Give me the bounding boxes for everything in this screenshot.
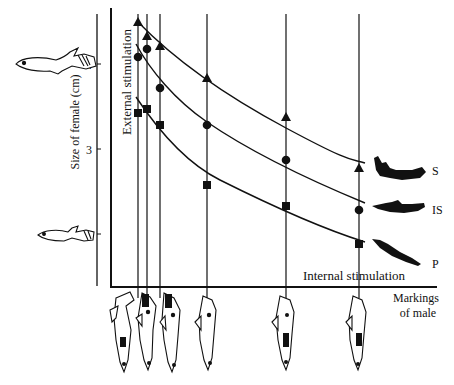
curve-p: [136, 97, 365, 242]
male-fish-5-icon: [272, 296, 294, 370]
legend-label-is: IS: [432, 203, 443, 217]
internal-stimulation-label: Internal stimulation: [303, 268, 406, 283]
external-stimulation-label: External stimulation: [119, 29, 134, 135]
chart: 4 3 2 Size of female (cm) External stimu…: [0, 0, 454, 385]
large-female-fish-icon: [16, 48, 96, 74]
legend-label-s: S: [432, 164, 439, 178]
legend-label-p: P: [432, 257, 439, 271]
markings-label-line1: Markings: [393, 291, 439, 305]
series-p-markers: [134, 105, 363, 248]
tick-label-3: 3: [86, 143, 92, 157]
male-fish-4-icon: [195, 296, 216, 370]
male-fish-3-icon: [160, 293, 180, 372]
male-vertical-lines: [138, 14, 359, 298]
fish-posture-s-icon: [374, 156, 426, 180]
series-s-markers: [133, 17, 364, 172]
markings-label-line2: of male: [400, 306, 436, 320]
male-fish-icons: [110, 292, 366, 372]
male-fish-6-icon: [346, 296, 366, 370]
male-fish-2-icon: [136, 293, 156, 370]
series-is-markers: [134, 45, 364, 215]
fish-posture-p-icon: [372, 239, 421, 266]
fish-posture-is-icon: [372, 200, 425, 213]
y-axis-label: Size of female (cm): [68, 75, 82, 170]
male-fish-1-icon: [110, 292, 134, 372]
curve-is: [136, 44, 365, 203]
